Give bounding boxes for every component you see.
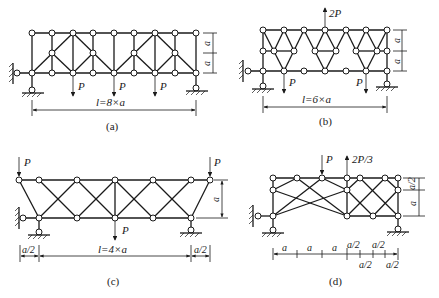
dimension-label: a — [282, 242, 287, 253]
truss-a: P P P a a l=8×a (a) — [9, 30, 217, 133]
height-label: a/2 — [406, 177, 417, 190]
overhang-label: a/2 — [194, 244, 207, 255]
truss-b: 2P P P a a l=6×a (b) — [239, 7, 407, 128]
dimension-label: a/2 — [359, 259, 372, 270]
load-label: P — [121, 224, 129, 236]
overhang-label: a/2 — [22, 244, 35, 255]
fixed-wall-support-icon — [239, 60, 243, 82]
load-label: P — [77, 80, 85, 92]
load-label: 2P — [329, 7, 342, 19]
load-label: P — [159, 80, 167, 92]
load-label: 2P/3 — [352, 153, 373, 165]
load-label: P — [355, 76, 363, 88]
load-label: P — [23, 156, 31, 168]
dimension-label: a — [332, 242, 337, 253]
load-label: P — [213, 156, 221, 168]
height-label: a — [391, 38, 402, 43]
dimension-label: a/2 — [386, 259, 399, 270]
pin-support-icon — [262, 232, 409, 237]
height-label: a — [407, 201, 418, 206]
height-label: a — [391, 59, 402, 64]
fixed-wall-support-icon — [9, 63, 13, 84]
dimension-label: a — [307, 242, 312, 253]
span-label: l=4×a — [98, 243, 127, 255]
load-arrow-icon — [73, 76, 155, 96]
fixed-wall-support-icon — [249, 205, 253, 227]
truss-a-nodes — [14, 30, 199, 93]
span-label: l=8×a — [96, 96, 125, 108]
span-label: l=6×a — [302, 93, 331, 105]
dimension-label: a/2 — [347, 239, 360, 250]
height-label: a — [201, 61, 212, 66]
figure-caption: (d) — [329, 275, 342, 288]
truss-figure-canvas: P P P a a l=8×a (a) — [0, 0, 439, 298]
figure-caption: (a) — [106, 120, 119, 133]
fixed-wall-support-icon — [15, 207, 19, 229]
height-label: a — [210, 197, 221, 202]
figure-caption: (b) — [319, 115, 332, 128]
dimension-label: a/2 — [372, 239, 385, 250]
load-label: P — [118, 80, 126, 92]
figure-caption: (c) — [107, 275, 120, 288]
truss-d: P 2P/3 a/2 a a a a a/2 a/2 a/2 a/2 (d) — [249, 153, 425, 288]
load-label: P — [288, 76, 296, 88]
height-label: a — [201, 41, 212, 46]
truss-c: P P P a a/2 l=4×a a/2 (c) — [15, 156, 228, 288]
load-label: P — [325, 153, 333, 165]
